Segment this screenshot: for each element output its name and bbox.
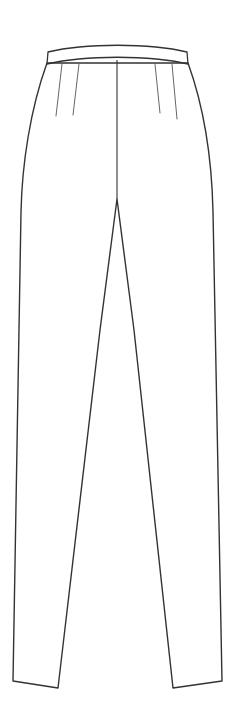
trousers-flat-svg: Technical flat sketch of tailored trouse… — [0, 0, 234, 723]
dart-left-inner-line — [73, 64, 79, 115]
dart-left-outer-line — [56, 64, 62, 116]
dart-right-inner-line — [155, 64, 160, 113]
dart-right-outer-line — [172, 64, 177, 119]
technical-flat-illustration: Technical flat sketch of tailored trouse… — [0, 0, 234, 723]
